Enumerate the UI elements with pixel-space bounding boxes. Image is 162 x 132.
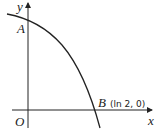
graph-diagram: y x O A B (ln 2, 0) xyxy=(0,0,162,132)
y-axis-label: y xyxy=(15,0,23,14)
origin-label: O xyxy=(15,114,25,129)
x-axis-label: x xyxy=(147,113,154,128)
point-b-coords: (ln 2, 0) xyxy=(110,99,145,109)
point-a-label: A xyxy=(16,21,25,36)
point-b-label: B xyxy=(98,95,106,110)
